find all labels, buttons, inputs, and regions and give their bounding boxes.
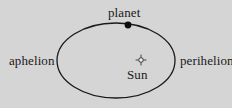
sun-label: Sun <box>127 68 148 81</box>
perihelion-label: perihelion <box>180 54 232 67</box>
aphelion-label: aphelion <box>9 54 55 67</box>
planet-dot-icon <box>125 22 132 29</box>
planet-label: planet <box>108 6 140 19</box>
orbit-ellipse <box>57 23 175 98</box>
sun-icon <box>136 55 147 66</box>
planetary-orbit-diagram: planet aphelion perihelion Sun <box>0 0 232 108</box>
